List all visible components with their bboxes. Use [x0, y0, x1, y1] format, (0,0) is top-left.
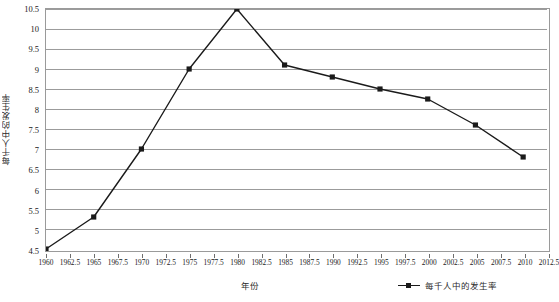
x-axis-tick-label: 1960	[39, 259, 54, 267]
x-axis-tick-label: 1962.5	[60, 259, 80, 267]
data-point-marker	[282, 62, 287, 67]
x-axis-tick-label: 1997.5	[395, 259, 415, 267]
y-axis-tick-label: 7.5	[28, 126, 39, 135]
x-axis-tick-label: 2002.5	[443, 259, 463, 267]
data-point-marker	[234, 9, 239, 12]
x-axis-tick-label: 1975	[182, 259, 197, 267]
plot-area	[45, 8, 550, 252]
y-axis-tick-label: 9	[35, 65, 39, 74]
data-point-marker	[377, 86, 382, 91]
x-axis-tick-label: 2000	[422, 259, 437, 267]
x-axis-tick-label: 1972.5	[156, 259, 176, 267]
y-axis-tick-labels: 4.555.566.577.588.599.51010.5	[12, 0, 42, 260]
y-axis-tick-label: 5	[35, 227, 39, 236]
data-point-marker	[91, 214, 96, 219]
y-axis-tick-label: 6.5	[28, 166, 39, 175]
y-axis-tick-label: 8.5	[28, 85, 39, 94]
x-axis-tick-label: 1990	[326, 259, 341, 267]
x-axis-tick-label: 1970	[134, 259, 149, 267]
x-axis-title: 年份	[150, 279, 350, 291]
y-axis-tick-label: 10.5	[24, 5, 39, 14]
x-axis-tick-label: 1980	[230, 259, 245, 267]
y-axis-tick-label: 4.5	[28, 247, 39, 256]
y-axis-tick-label: 6	[35, 186, 39, 195]
x-axis-tick-label: 1992.5	[347, 259, 367, 267]
y-axis-tick-label: 9.5	[28, 45, 39, 54]
x-axis-tick-label: 2005	[470, 259, 485, 267]
legend-line-marker-icon	[398, 281, 420, 290]
data-point-marker	[473, 122, 478, 127]
x-axis-tick-label: 1985	[278, 259, 293, 267]
data-point-marker	[46, 246, 49, 251]
data-point-marker	[330, 74, 335, 79]
chart-legend: 每千人中的发生率	[398, 279, 497, 291]
x-axis-tick-labels: 19601962.519651967.519701972.519751977.5…	[45, 254, 550, 272]
x-axis-tick-label: 1995	[374, 259, 389, 267]
data-point-marker	[521, 154, 526, 159]
legend-item-label: 每千人中的发生率	[425, 279, 497, 291]
x-axis-tick-label: 2007.5	[491, 259, 511, 267]
y-axis-tick-label: 7	[35, 146, 39, 155]
x-axis-tick-label: 1967.5	[108, 259, 128, 267]
plot-canvas	[46, 9, 549, 251]
data-point-marker	[425, 96, 430, 101]
y-axis-tick-label: 5.5	[28, 206, 39, 215]
x-axis-tick-label: 1977.5	[203, 259, 223, 267]
x-axis-tick-label: 1965	[87, 259, 102, 267]
x-axis-tick-label: 1987.5	[299, 259, 319, 267]
data-point-marker	[187, 66, 192, 71]
x-axis-tick-label: 2012.5	[539, 259, 559, 267]
y-axis-tick-label: 10	[31, 25, 40, 34]
y-axis-tick-label: 8	[35, 106, 39, 115]
x-axis-tick-label: 1982.5	[251, 259, 271, 267]
x-axis-tick-label: 2010	[518, 259, 533, 267]
data-point-marker	[139, 146, 144, 151]
